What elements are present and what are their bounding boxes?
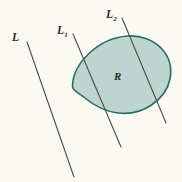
line-label-L2: L2 — [106, 9, 117, 21]
line-label-L2-subscript: 2 — [113, 15, 117, 23]
region-label-R-text: R — [114, 70, 121, 82]
line-label-L1-subscript: 1 — [64, 31, 68, 39]
region-label-R: R — [114, 71, 121, 82]
figure-canvas: L L1 L2 R — [0, 0, 182, 182]
figure-svg — [0, 0, 182, 182]
region-shape-R — [73, 36, 171, 114]
line-label-L1-base: L — [57, 24, 64, 36]
line-label-L2-base: L — [106, 8, 113, 20]
line-label-L-text: L — [12, 31, 19, 43]
line-label-L1: L1 — [57, 25, 68, 37]
line-label-L: L — [12, 32, 19, 44]
line-L — [27, 42, 74, 177]
